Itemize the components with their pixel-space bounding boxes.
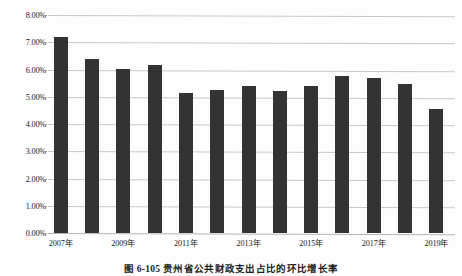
bar bbox=[85, 59, 99, 233]
y-axis-tick-mark bbox=[42, 233, 47, 234]
figure-container: 8.00%7.00%6.00%5.00%4.00%3.00%2.00%1.00%… bbox=[0, 0, 462, 276]
y-axis-tick-mark bbox=[42, 70, 47, 71]
bar bbox=[179, 93, 193, 233]
bar bbox=[429, 109, 443, 233]
bar bbox=[242, 86, 256, 233]
bar bbox=[210, 90, 224, 233]
gridline bbox=[48, 233, 455, 235]
x-axis-tick-label: 2007年 bbox=[49, 236, 73, 248]
bar bbox=[304, 86, 318, 233]
x-axis-tick-label: 2017年 bbox=[362, 236, 386, 248]
x-axis-tick-label: 2015年 bbox=[299, 236, 323, 248]
y-axis-tick-mark bbox=[42, 97, 47, 98]
figure-caption: 图 6-105 贵州省公共财政支出占比的环比增长率 bbox=[0, 261, 462, 275]
y-axis-tick-label: 2.00% bbox=[2, 174, 46, 183]
y-axis-tick-label: 3.00% bbox=[2, 147, 46, 156]
y-axis-tick-mark bbox=[42, 206, 47, 207]
gridline bbox=[48, 15, 455, 17]
x-axis: 2007年2009年2011年2013年2015年2017年2019年 bbox=[48, 236, 455, 252]
plot-area bbox=[48, 15, 455, 233]
bar bbox=[398, 84, 412, 233]
x-axis-tick-label: 2019年 bbox=[424, 236, 448, 248]
bar bbox=[54, 37, 68, 233]
bar bbox=[367, 78, 381, 233]
y-axis-tick-mark bbox=[42, 15, 47, 16]
bar bbox=[335, 76, 349, 233]
y-axis-tick-label: 1.00% bbox=[2, 201, 46, 210]
x-axis-tick-label: 2009年 bbox=[111, 236, 135, 248]
y-axis-tick-mark bbox=[42, 42, 47, 43]
y-axis-tick-mark bbox=[42, 124, 47, 125]
y-axis-tick-label: 4.00% bbox=[2, 120, 46, 129]
bar bbox=[273, 91, 287, 233]
y-axis-tick-label: 6.00% bbox=[2, 65, 46, 74]
x-axis-tick-label: 2013年 bbox=[237, 236, 261, 248]
gridline bbox=[48, 70, 455, 72]
y-axis-tick-label: 7.00% bbox=[2, 38, 46, 47]
y-axis-tick-mark bbox=[42, 179, 47, 180]
gridline bbox=[48, 42, 455, 44]
bar bbox=[148, 65, 162, 233]
y-axis-tick-label: 0.00% bbox=[2, 229, 46, 238]
bar bbox=[116, 69, 130, 233]
y-axis-tick-label: 5.00% bbox=[2, 92, 46, 101]
x-axis-tick-label: 2011年 bbox=[174, 236, 198, 248]
y-axis-tick-label: 8.00% bbox=[2, 11, 46, 20]
y-axis: 8.00%7.00%6.00%5.00%4.00%3.00%2.00%1.00%… bbox=[0, 15, 46, 233]
y-axis-tick-mark bbox=[42, 151, 47, 152]
